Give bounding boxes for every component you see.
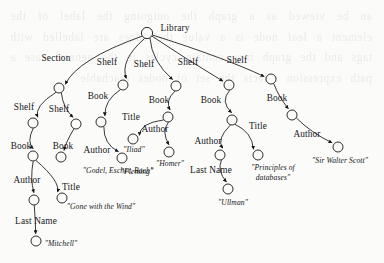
graph-edge (220, 125, 230, 148)
graph-edge (64, 129, 74, 150)
graph-node-shelfA (28, 118, 38, 128)
figure-canvas: an be viewed as a graph the outgoing the… (0, 0, 384, 263)
graph-edge (235, 124, 253, 148)
graph-edge (139, 120, 163, 135)
edge-layer (30, 35, 332, 233)
graph-edge (168, 91, 174, 109)
graph-edge (61, 93, 72, 117)
graph-node-authorA (29, 195, 39, 205)
graph-edge (220, 160, 226, 181)
graph-edge (105, 90, 120, 116)
graph-edge (65, 36, 141, 84)
graph-node-lastNameE (223, 184, 233, 194)
graph-node-titleE (253, 150, 263, 160)
graph-edge (225, 91, 231, 113)
graph-edge (125, 39, 145, 78)
graph-edge (274, 84, 288, 109)
graph-edge (104, 127, 118, 152)
graph-node-bookD (163, 112, 173, 122)
graph-node-bookE (227, 115, 237, 125)
node-layer (28, 27, 343, 246)
graph-edge (152, 36, 222, 81)
graph-edge (297, 118, 332, 142)
graph-node-authorE (215, 150, 225, 160)
graph-node-shelf1 (118, 80, 128, 90)
graph-edge (34, 206, 35, 234)
graph-node-lastNameA (31, 236, 41, 246)
graph-node-bookB (56, 152, 66, 162)
graph-node-titleA (57, 193, 67, 203)
graph-node-root (141, 27, 152, 38)
graph-edge (165, 123, 169, 145)
graph-edge (150, 38, 172, 79)
graph-node-titleD (128, 134, 138, 144)
graph-node-authorF (333, 142, 343, 152)
graph-node-shelf2 (171, 81, 181, 91)
graph-node-bookA (28, 151, 38, 161)
graph-edge (153, 35, 264, 76)
graph-edge (32, 162, 34, 193)
graph-svg (0, 0, 384, 263)
graph-edge (37, 92, 56, 116)
graph-node-shelf4 (266, 74, 276, 84)
graph-node-authorD (164, 147, 174, 157)
graph-node-authorC (117, 153, 127, 163)
graph-node-bookF (287, 110, 297, 120)
graph-edge (36, 161, 58, 192)
graph-node-bookC (96, 117, 106, 127)
graph-node-shelfB (71, 119, 81, 129)
graph-edge (30, 129, 33, 149)
graph-node-section (54, 83, 64, 93)
graph-node-shelf3 (224, 80, 234, 90)
